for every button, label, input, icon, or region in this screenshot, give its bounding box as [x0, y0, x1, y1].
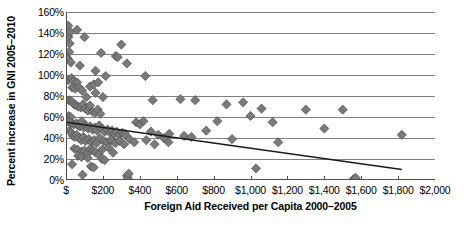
data-point — [91, 66, 100, 75]
y-tick-label: 140% — [20, 28, 64, 39]
y-tick-label: 20% — [20, 154, 64, 165]
data-point — [222, 100, 231, 109]
data-point — [257, 104, 266, 113]
data-point — [150, 140, 159, 149]
data-point — [98, 92, 107, 101]
data-point — [101, 71, 110, 80]
data-point — [67, 160, 76, 169]
data-point — [239, 98, 248, 107]
y-axis-title: Percent increase in GNI 2005–2010 — [3, 6, 19, 196]
data-point — [251, 164, 260, 173]
y-tick-label: 120% — [20, 49, 64, 60]
data-point — [246, 111, 255, 120]
plot-canvas — [66, 12, 435, 180]
y-tick-label: 60% — [20, 112, 64, 123]
data-point — [351, 173, 360, 180]
x-axis-title: Foreign Aid Received per Capita 2000–200… — [66, 200, 435, 212]
data-point — [338, 105, 347, 114]
data-point — [75, 61, 84, 70]
data-point — [301, 105, 310, 114]
x-tick-label: $2,000 — [405, 183, 465, 197]
data-point — [320, 124, 329, 133]
data-point — [96, 48, 105, 57]
x-axis-tick-labels: $$200$400$600$800$1,000$1,200$1,400$1,60… — [66, 183, 435, 199]
data-point — [122, 59, 131, 68]
y-tick-label: 100% — [20, 70, 64, 81]
data-point — [78, 170, 87, 179]
plot-area — [66, 12, 435, 180]
scatter-chart-figure: Percent increase in GNI 2005–2010 0%20%4… — [0, 0, 472, 225]
data-point — [141, 71, 150, 80]
data-point — [268, 118, 277, 127]
data-point — [176, 95, 185, 104]
data-point — [202, 126, 211, 135]
y-tick-label: 160% — [20, 7, 64, 18]
data-point — [117, 40, 126, 49]
data-points — [66, 21, 406, 180]
data-point — [227, 134, 236, 143]
y-tick-label: 80% — [20, 91, 64, 102]
data-point — [142, 136, 151, 145]
y-tick-label: 40% — [20, 133, 64, 144]
